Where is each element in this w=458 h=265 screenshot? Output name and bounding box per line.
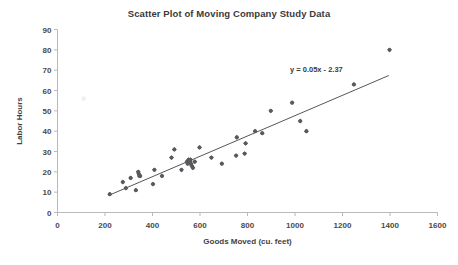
marker-core [235, 135, 239, 139]
data-point [242, 151, 247, 156]
marker-core [305, 129, 309, 133]
scan-speck [81, 96, 85, 100]
marker-core [352, 83, 356, 87]
y-tick-label: 90 [43, 26, 52, 35]
marker-core [170, 156, 174, 160]
marker-core [138, 174, 142, 178]
data-point [107, 192, 112, 197]
y-tick-label: 40 [43, 127, 52, 136]
data-point [128, 176, 133, 181]
marker-core [193, 160, 197, 164]
data-point [209, 155, 214, 160]
data-point [179, 167, 184, 172]
marker-core [244, 141, 248, 145]
y-tick-label: 20 [43, 168, 52, 177]
marker-core [124, 186, 128, 190]
x-tick-label: 800 [241, 221, 255, 230]
regression-equation: y = 0.05x - 2.37 [290, 65, 343, 74]
data-point [152, 167, 157, 172]
x-tick-label: 0 [55, 221, 60, 230]
marker-core [290, 101, 294, 105]
marker-core [129, 176, 133, 180]
plot-area: 0102030405060708090 02004006008001000120… [0, 0, 458, 265]
data-point [234, 135, 239, 140]
data-point [172, 147, 177, 152]
marker-core [108, 192, 112, 196]
y-axis-ticks: 0102030405060708090 [43, 26, 58, 218]
data-point [268, 108, 273, 113]
x-tick-label: 600 [193, 221, 207, 230]
scan-artifacts [81, 96, 85, 100]
marker-core [243, 152, 247, 156]
marker-core [234, 154, 238, 158]
y-tick-label: 0 [47, 209, 52, 218]
marker-core [180, 168, 184, 172]
x-axis-title: Goods Moved (cu. feet) [203, 237, 292, 246]
y-tick-label: 60 [43, 87, 52, 96]
data-point [219, 161, 224, 166]
data-point [151, 182, 156, 187]
x-tick-label: 1600 [429, 221, 447, 230]
marker-core [134, 188, 138, 192]
x-tick-label: 400 [146, 221, 160, 230]
data-point [160, 174, 165, 179]
marker-core [210, 156, 214, 160]
data-point [124, 186, 129, 191]
marker-core [198, 146, 202, 150]
annotations: y = 0.05x - 2.37 [290, 65, 343, 74]
marker-core [388, 48, 392, 52]
trendline [109, 75, 389, 195]
data-point [243, 141, 248, 146]
marker-core [160, 174, 164, 178]
data-point [169, 155, 174, 160]
data-point [253, 129, 258, 134]
data-points [107, 47, 392, 196]
marker-core [269, 109, 273, 113]
marker-core [253, 129, 257, 133]
y-tick-label: 30 [43, 148, 52, 157]
marker-core [189, 158, 193, 162]
marker-core [260, 131, 264, 135]
x-tick-label: 1000 [286, 221, 304, 230]
x-tick-label: 1400 [381, 221, 399, 230]
data-point [352, 82, 357, 87]
marker-core [298, 119, 302, 123]
marker-core [151, 182, 155, 186]
data-point [387, 47, 392, 52]
y-tick-label: 50 [43, 107, 52, 116]
y-tick-label: 10 [43, 188, 52, 197]
y-tick-label: 80 [43, 46, 52, 55]
x-axis-ticks: 02004006008001000120014001600 [55, 213, 447, 230]
x-tick-label: 1200 [334, 221, 352, 230]
data-point [192, 159, 197, 164]
data-point [133, 188, 138, 193]
data-point [197, 145, 202, 150]
data-point [120, 180, 125, 185]
marker-core [172, 148, 176, 152]
data-point [298, 119, 303, 124]
scatter-chart: Scatter Plot of Moving Company Study Dat… [0, 0, 458, 265]
data-point [290, 100, 295, 105]
marker-core [153, 168, 157, 172]
marker-core [191, 166, 195, 170]
data-point [260, 131, 265, 136]
marker-core [121, 180, 125, 184]
y-axis-title: Labor Hours [15, 97, 24, 145]
marker-core [220, 162, 224, 166]
x-tick-label: 200 [98, 221, 112, 230]
data-point [234, 153, 239, 158]
data-point [304, 129, 309, 134]
y-tick-label: 70 [43, 66, 52, 75]
